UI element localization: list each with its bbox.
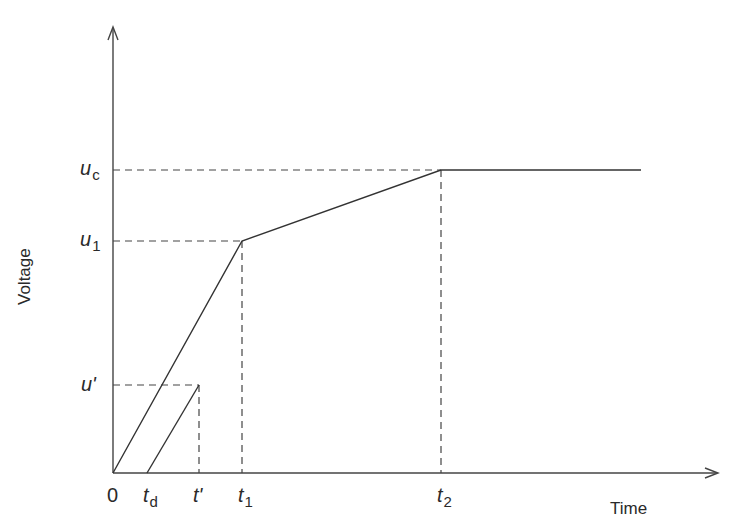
x-axis-title: Time xyxy=(610,500,647,517)
label-u1-base: u xyxy=(80,228,91,250)
label-t2-sub: 2 xyxy=(444,493,452,510)
label-origin-base: 0 xyxy=(107,484,118,506)
label-uc-base: u xyxy=(80,157,91,179)
label-uprime: u' xyxy=(81,374,96,394)
label-tprime-base: t' xyxy=(193,484,202,506)
label-t1-base: t xyxy=(238,484,244,506)
label-t2: t2 xyxy=(437,485,452,505)
label-tprime: t' xyxy=(193,485,202,505)
main-voltage-curve xyxy=(113,170,641,473)
label-t1-sub: 1 xyxy=(245,493,253,510)
label-uc-sub: c xyxy=(92,166,100,183)
label-t2-base: t xyxy=(437,484,443,506)
label-uprime-base: u' xyxy=(81,373,96,395)
label-origin: 0 xyxy=(107,485,118,505)
label-uc: uc xyxy=(80,158,100,178)
y-axis-title: Voltage xyxy=(16,248,33,305)
label-td: td xyxy=(143,485,158,505)
label-u1-sub: 1 xyxy=(92,237,100,254)
label-u1: u1 xyxy=(80,229,100,249)
label-td-base: t xyxy=(143,484,149,506)
label-td-sub: d xyxy=(150,493,158,510)
label-t1: t1 xyxy=(238,485,253,505)
voltage-time-diagram xyxy=(0,0,754,531)
